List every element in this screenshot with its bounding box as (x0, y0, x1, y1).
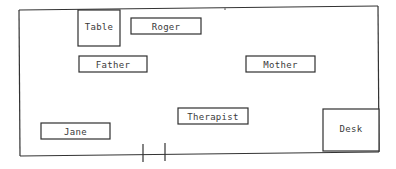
person-father: Father (79, 56, 147, 72)
mother-label: Mother (263, 60, 298, 70)
door (143, 143, 165, 162)
table-label: Table (85, 22, 114, 32)
desk-label: Desk (340, 124, 363, 134)
person-therapist: Therapist (178, 108, 248, 124)
wall-left (19, 10, 20, 156)
person-mother: Mother (246, 56, 315, 72)
therapist-label: Therapist (187, 112, 238, 122)
table: Table (78, 10, 120, 46)
room-layout-diagram: Table Desk Roger Father Mother Therapist… (0, 0, 396, 169)
person-jane: Jane (41, 123, 110, 139)
father-label: Father (96, 60, 131, 70)
wall-top (19, 6, 378, 10)
desk: Desk (323, 109, 379, 151)
jane-label: Jane (64, 127, 87, 137)
person-roger: Roger (131, 18, 201, 34)
wall-mark (224, 8, 226, 10)
roger-label: Roger (152, 22, 181, 32)
wall-bottom (20, 152, 379, 156)
